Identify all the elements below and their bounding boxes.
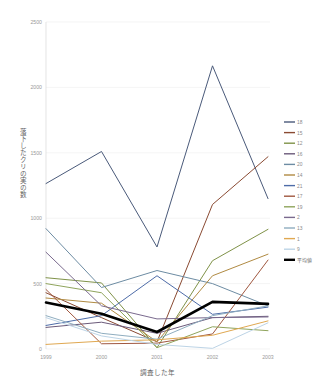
- legend-label-1[interactable]: 1: [297, 237, 300, 242]
- legend-label-21[interactable]: 21: [297, 184, 303, 189]
- legend-label-12[interactable]: 12: [297, 141, 303, 146]
- legend-label-20[interactable]: 20: [297, 162, 303, 167]
- legend-label-13[interactable]: 13: [297, 226, 303, 231]
- legend-label-18[interactable]: 18: [297, 120, 303, 125]
- y-tick-label: 2000: [30, 84, 42, 90]
- legend-label-16[interactable]: 16: [297, 152, 303, 157]
- x-tick-label: 2001: [151, 354, 163, 360]
- legend: 18151216201421171921319平均値: [284, 120, 312, 264]
- legend-label-平均値[interactable]: 平均値: [297, 257, 312, 264]
- x-tick-label: 2000: [96, 354, 108, 360]
- y-tick-label: 1000: [30, 215, 42, 221]
- legend-label-17[interactable]: 17: [297, 194, 303, 199]
- series-line-21: [46, 276, 268, 326]
- line-chart: 05001000150020002500 1999200020012002200…: [0, 0, 328, 391]
- legend-label-15[interactable]: 15: [297, 131, 303, 136]
- y-axis-tick-labels: 05001000150020002500: [30, 19, 42, 352]
- series-lines: [46, 66, 268, 349]
- gridlines: [46, 22, 270, 349]
- y-tick-label: 1500: [30, 150, 42, 156]
- chart-container: 05001000150020002500 1999200020012002200…: [0, 0, 328, 391]
- series-line-18: [46, 66, 268, 247]
- x-tick-label: 1999: [40, 354, 52, 360]
- x-axis-tick-labels: 19992000200120022003: [40, 354, 274, 360]
- series-line-15: [46, 157, 268, 342]
- y-tick-label: 0: [39, 346, 42, 352]
- y-tick-label: 2500: [30, 19, 42, 25]
- legend-label-2[interactable]: 2: [297, 215, 300, 220]
- legend-label-14[interactable]: 14: [297, 173, 303, 178]
- x-axis-title: 調査した年: [140, 368, 175, 377]
- y-axis-title: 落下したクリの実の数: [19, 127, 26, 199]
- x-tick-label: 2002: [207, 354, 219, 360]
- x-tick-label: 2003: [262, 354, 274, 360]
- legend-label-9[interactable]: 9: [297, 247, 300, 252]
- legend-label-19[interactable]: 19: [297, 205, 303, 210]
- y-tick-label: 500: [33, 281, 42, 287]
